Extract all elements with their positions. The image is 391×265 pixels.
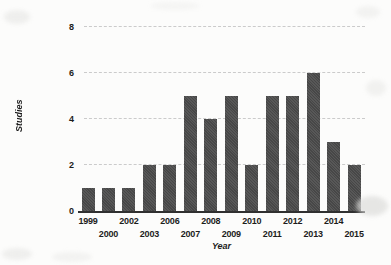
scan-artifact: [356, 6, 380, 18]
scan-artifact: [150, 2, 200, 10]
bar-1999: [82, 188, 95, 211]
y-tick-label-6: 6: [56, 67, 74, 79]
scan-artifact: [4, 10, 30, 24]
x-tick-label-2011: 2011: [254, 228, 290, 240]
scan-artifact: [52, 252, 92, 262]
x-tick-label-2003: 2003: [131, 228, 167, 240]
bar-2012: [286, 96, 299, 211]
bar-2014: [327, 142, 340, 211]
x-tick-label-2007: 2007: [172, 228, 208, 240]
bar-2002: [122, 188, 135, 211]
scan-artifact: [366, 80, 386, 96]
y-tick-label-8: 8: [56, 21, 74, 33]
x-tick-label-2014: 2014: [316, 215, 352, 227]
x-axis-title: Year: [78, 241, 365, 251]
bar-2003: [143, 165, 156, 211]
x-axis-labels: 1999200020022003200620072008200920102011…: [78, 214, 365, 242]
scan-artifact: [356, 196, 388, 216]
scan-artifact: [2, 248, 32, 260]
x-tick-label-2015: 2015: [336, 228, 372, 240]
x-tick-label-1999: 1999: [70, 215, 106, 227]
gridline-y8: [84, 26, 365, 27]
x-tick-label-2000: 2000: [90, 228, 126, 240]
y-tick-label-2: 2: [56, 159, 74, 171]
bar-2008: [204, 119, 217, 211]
plot-area: [78, 27, 365, 213]
bar-2006: [163, 165, 176, 211]
bar-2013: [307, 73, 320, 211]
x-tick-label-2010: 2010: [234, 215, 270, 227]
y-tick-label-0: 0: [56, 205, 74, 217]
bar-2000: [102, 188, 115, 211]
x-tick-label-2012: 2012: [275, 215, 311, 227]
x-tick-label-2006: 2006: [152, 215, 188, 227]
y-tick-label-4: 4: [56, 113, 74, 125]
bar-2007: [184, 96, 197, 211]
bar-2009: [225, 96, 238, 211]
chart-screenshot: Studies 19992000200220032006200720082009…: [0, 0, 391, 265]
x-tick-label-2002: 2002: [111, 215, 147, 227]
gridline-y6: [84, 72, 365, 73]
x-tick-label-2013: 2013: [295, 228, 331, 240]
x-tick-label-2009: 2009: [213, 228, 249, 240]
x-tick-label-2008: 2008: [193, 215, 229, 227]
bar-2011: [266, 96, 279, 211]
bar-2010: [245, 165, 258, 211]
y-axis-title: Studies: [14, 86, 24, 146]
